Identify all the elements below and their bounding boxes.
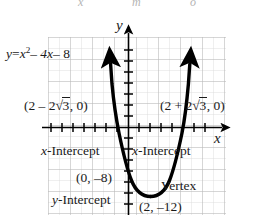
x-axis-label: x: [214, 131, 221, 146]
y-axis: [124, 33, 133, 215]
left-root-open: (2 – 2: [24, 98, 56, 113]
x-axis: [42, 123, 222, 132]
equation-constant-term: – 8: [53, 46, 70, 61]
left-root-close: , 0): [70, 98, 88, 113]
y-axis-label: y: [116, 18, 123, 33]
right-root-close: , 0): [207, 98, 225, 113]
right-root-open: (2 + 2: [160, 98, 192, 113]
equation-label: y=x2– 4x– 8: [6, 47, 70, 61]
vertex-label: Vertex: [161, 179, 196, 193]
y-intercept-point-label: (0, –8): [76, 171, 112, 185]
y-intercept-label: y-Intercept: [52, 193, 110, 207]
x-intercept-label-right: xx-Intercept-Intercept: [132, 144, 190, 158]
equation-equals: =: [12, 46, 20, 61]
right-root-coordinate-label: (2 + 2√3, 0): [160, 99, 225, 113]
vertex-point-label: (2, –12): [139, 200, 182, 214]
x-intercept-label-left: xx-Intercept-Intercept: [41, 144, 99, 158]
parabola-figure: x m o: [0, 0, 254, 222]
left-root-radicand: 3: [62, 97, 70, 113]
left-root-coordinate-label: (2 – 2√3, 0): [24, 99, 88, 113]
equation-linear-term: – 4x: [30, 46, 53, 61]
right-root-radicand: 3: [199, 97, 207, 113]
